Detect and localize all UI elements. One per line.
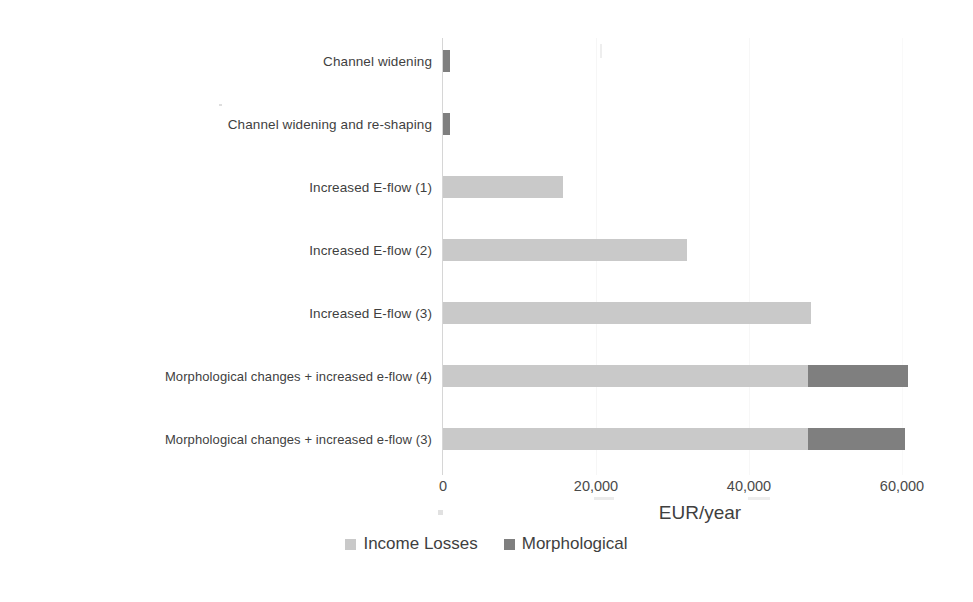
x-axis-title: EUR/year bbox=[659, 502, 741, 524]
category-label: Morphological changes + increased e-flow… bbox=[165, 432, 432, 447]
category-label: Increased E-flow (3) bbox=[309, 306, 432, 321]
legend-item-morphological: Morphological bbox=[504, 534, 628, 554]
x-tick-label: 40,000 bbox=[727, 478, 771, 494]
legend-label: Morphological bbox=[522, 534, 628, 554]
x-tick-label: 60,000 bbox=[880, 478, 924, 494]
bar-segment-income-losses bbox=[443, 239, 687, 261]
bar-segment-morphological bbox=[808, 365, 908, 387]
category-label: Increased E-flow (1) bbox=[309, 180, 432, 195]
scan-artifact-speck bbox=[438, 510, 443, 515]
category-label: Morphological changes + increased e-flow… bbox=[165, 369, 432, 384]
legend-swatch-icon bbox=[345, 539, 356, 550]
scan-artifact-speck bbox=[748, 497, 770, 500]
legend-swatch-icon bbox=[504, 539, 515, 550]
bar-segment-income-losses bbox=[443, 428, 808, 450]
legend-item-income-losses: Income Losses bbox=[345, 534, 477, 554]
bar-segment-morphological bbox=[443, 50, 450, 72]
category-label: Channel widening and re-shaping bbox=[228, 117, 432, 132]
chart-container: Channel widening Channel widening and re… bbox=[0, 0, 973, 602]
plot-area bbox=[443, 38, 903, 475]
category-label: Channel widening bbox=[323, 54, 432, 69]
bar-segment-income-losses bbox=[443, 365, 808, 387]
chart-legend: Income Losses Morphological bbox=[0, 534, 973, 554]
scan-artifact-speck bbox=[594, 497, 614, 500]
y-axis-category-labels: Channel widening Channel widening and re… bbox=[0, 0, 432, 437]
x-tick-label: 20,000 bbox=[574, 478, 618, 494]
legend-label: Income Losses bbox=[363, 534, 477, 554]
x-tick-label: 0 bbox=[439, 478, 447, 494]
category-label: Increased E-flow (2) bbox=[309, 243, 432, 258]
bar-segment-income-losses bbox=[443, 176, 563, 198]
bar-segment-morphological bbox=[443, 113, 450, 135]
bar-segment-income-losses bbox=[443, 302, 811, 324]
bar-segment-morphological bbox=[808, 428, 905, 450]
